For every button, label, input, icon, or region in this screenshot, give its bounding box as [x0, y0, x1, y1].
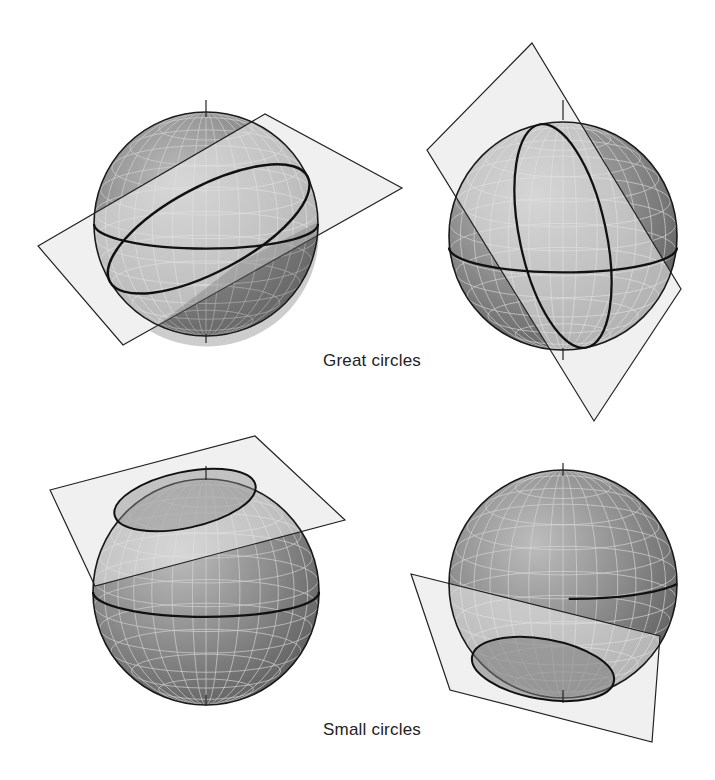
small-circle-panel-2	[411, 463, 677, 742]
small-circle-panel-1	[50, 436, 345, 706]
great-circles-caption: Great circles	[323, 351, 421, 371]
great-circle-panel-1	[38, 100, 402, 346]
great-circle-panel-2	[427, 43, 681, 421]
great-small-circles-figure	[0, 0, 715, 780]
small-circles-caption: Small circles	[323, 720, 421, 740]
